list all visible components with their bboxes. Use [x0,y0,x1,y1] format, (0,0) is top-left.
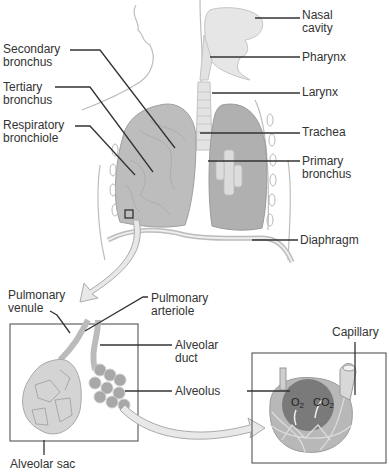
label-pharynx: Pharynx [302,51,346,64]
label-oxygen: O2 [291,396,304,410]
label-capillary: Capillary [332,326,379,339]
label-larynx: Larynx [302,86,338,99]
label-alveolus: Alveolus [175,385,220,398]
label-alveolar-duct: Alveolar duct [175,339,218,365]
label-primary-bronchus: Primary bronchus [302,155,351,181]
label-trachea: Trachea [302,126,346,139]
label-nasal-cavity: Nasal cavity [302,9,333,35]
label-secondary-bronchus: Secondary bronchus [3,43,60,69]
label-tertiary-bronchus: Tertiary bronchus [3,81,52,107]
label-respiratory-bronchiole: Respiratory bronchiole [3,119,64,145]
respiratory-diagram: Nasal cavity Pharynx Larynx Trachea Prim… [0,0,389,474]
label-pulmonary-arteriole: Pulmonary arteriole [151,292,208,318]
label-diaphragm: Diaphragm [300,234,359,247]
label-carbon-dioxide: CO2 [313,396,334,410]
label-alveolar-sac: Alveolar sac [10,458,75,471]
label-pulmonary-venule: Pulmonary venule [8,289,65,315]
